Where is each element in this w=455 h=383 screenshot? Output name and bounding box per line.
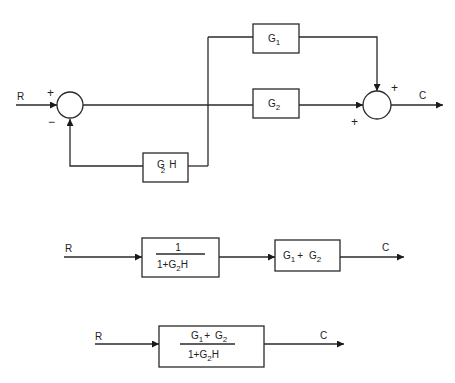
reduced-step-diagram: R 1 1+G2H G1+G2 C (64, 238, 404, 277)
block-feedback-g2h (143, 153, 188, 182)
input-label-r: R (17, 91, 24, 102)
summing-junction-right (363, 91, 391, 119)
plus-sign-right-left: + (351, 115, 358, 129)
final-input-label-r: R (95, 331, 102, 342)
summing-junction-left (57, 92, 83, 118)
minus-sign-left: − (48, 115, 55, 129)
g1-output-arrow (299, 37, 377, 91)
reduced-output-label-c: C (382, 242, 389, 253)
feedback-arrow (70, 119, 143, 166)
plus-sign-right-top: + (391, 81, 398, 95)
block-diagram-canvas: R + − G1 G2 + + C G2H R (0, 0, 455, 383)
final-diagram: R G1+G2 1+G2H C (95, 326, 344, 367)
output-label-c: C (419, 90, 426, 101)
final-output-label-c: C (320, 330, 327, 341)
original-diagram: R + − G1 G2 + + C G2H (16, 24, 443, 182)
reduced-input-label-r: R (65, 243, 72, 254)
closed-loop-numerator: 1 (175, 242, 181, 253)
plus-sign-left: + (47, 86, 54, 100)
